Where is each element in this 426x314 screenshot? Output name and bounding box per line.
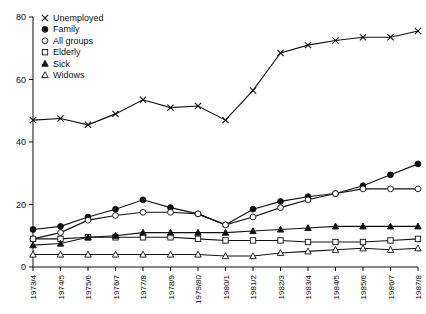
y-tick-label: 40 xyxy=(16,137,26,147)
legend-item-elderly: Elderly xyxy=(42,47,81,57)
legend-label: Elderly xyxy=(53,47,81,57)
data-point xyxy=(388,186,394,192)
data-point xyxy=(195,236,200,241)
data-point xyxy=(140,197,146,203)
data-point xyxy=(223,222,229,228)
data-point xyxy=(112,111,118,117)
data-point xyxy=(278,205,284,211)
data-point xyxy=(58,230,64,236)
x-tick-label: 1980/1 xyxy=(222,274,231,299)
legend-label: Sick xyxy=(53,59,71,69)
y-tick-label: 20 xyxy=(16,200,26,210)
x-tick-label: 1982/3 xyxy=(277,274,286,299)
legend-item-all-groups: All groups xyxy=(42,36,93,46)
data-point xyxy=(250,206,256,212)
x-tick-group: 1973/41974/51975/61976/71977/81978/91979… xyxy=(29,267,423,304)
data-point xyxy=(305,197,311,203)
x-tick-label: 1985/6 xyxy=(359,274,368,299)
data-point xyxy=(333,239,338,244)
data-point xyxy=(222,117,228,123)
data-point xyxy=(168,209,174,215)
legend-item-widows: Widows xyxy=(42,70,85,80)
data-point xyxy=(85,217,91,223)
data-point xyxy=(58,223,64,229)
legend-marker-icon xyxy=(42,27,48,33)
y-tick-group: 020406080 xyxy=(16,12,33,272)
legend-item-unemployed: Unemployed xyxy=(42,13,104,23)
data-point xyxy=(250,238,255,243)
x-tick-label: 1987/8 xyxy=(414,274,423,299)
chart-canvas: 020406080 1973/41974/51975/61976/71977/8… xyxy=(0,0,426,314)
x-tick-label: 1984/5 xyxy=(332,274,341,299)
legend-marker-icon xyxy=(42,15,48,21)
legend-item-sick: Sick xyxy=(42,59,71,69)
x-tick-label: 1983/4 xyxy=(304,274,313,299)
data-point xyxy=(113,213,119,219)
data-point xyxy=(140,209,146,215)
x-tick-label: 1974/5 xyxy=(57,274,66,299)
y-tick-label: 0 xyxy=(21,262,26,272)
y-tick-label: 80 xyxy=(16,12,26,22)
data-point xyxy=(305,239,310,244)
data-point xyxy=(30,227,36,233)
data-point xyxy=(113,206,119,212)
series-layer xyxy=(30,28,421,259)
y-tick-label: 60 xyxy=(16,75,26,85)
data-point xyxy=(278,198,284,204)
data-point xyxy=(223,238,228,243)
x-tick-label: 1981/2 xyxy=(249,274,258,299)
data-point xyxy=(195,211,201,217)
legend-marker-icon xyxy=(42,38,48,44)
line-chart: 020406080 1973/41974/51975/61976/71977/8… xyxy=(0,0,426,314)
x-tick-label: 1975/6 xyxy=(84,274,93,299)
x-tick-label: 1978/9 xyxy=(167,274,176,299)
data-point xyxy=(30,236,35,241)
data-point xyxy=(140,97,146,103)
data-point xyxy=(388,238,393,243)
data-point xyxy=(277,50,283,56)
data-point xyxy=(415,161,421,167)
legend-label: Unemployed xyxy=(53,13,104,23)
data-point xyxy=(278,238,283,243)
x-axis: 1973/41974/51975/61976/71977/81978/91979… xyxy=(29,267,423,304)
x-tick-label: 1973/4 xyxy=(29,274,38,299)
x-tick-label: 1979/80 xyxy=(194,274,203,303)
y-axis: 020406080 xyxy=(16,12,33,272)
x-tick-label: 1977/8 xyxy=(139,274,148,299)
legend-marker-icon xyxy=(42,50,47,55)
legend-label: Widows xyxy=(53,70,85,80)
chart-legend: UnemployedFamilyAll groupsElderlySickWid… xyxy=(42,13,104,80)
data-point xyxy=(250,87,256,93)
x-tick-label: 1986/7 xyxy=(387,274,396,299)
data-point xyxy=(333,191,339,197)
data-point xyxy=(388,172,394,178)
data-point xyxy=(415,236,420,241)
data-point xyxy=(415,186,421,192)
data-point xyxy=(250,214,256,220)
legend-label: Family xyxy=(53,24,80,34)
x-tick-label: 1976/7 xyxy=(112,274,121,299)
legend-marker-icon xyxy=(42,60,48,66)
data-point xyxy=(360,186,366,192)
series-widows xyxy=(30,245,421,259)
legend-item-family: Family xyxy=(42,24,80,34)
data-point xyxy=(360,239,365,244)
legend-marker-icon xyxy=(42,72,48,78)
legend-label: All groups xyxy=(53,36,94,46)
